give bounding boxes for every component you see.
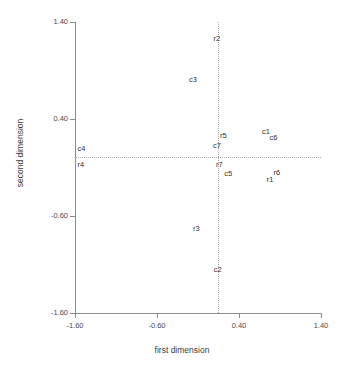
horizontal-reference-line: [75, 157, 321, 158]
x-axis-tick: [239, 313, 240, 318]
data-point-label: c4: [78, 145, 86, 153]
y-axis-tick-label: 1.40: [53, 18, 68, 26]
data-point-label: r2: [214, 35, 221, 43]
y-axis-tick: [70, 119, 75, 120]
x-axis-title: first dimension: [0, 345, 364, 355]
data-point-label: c3: [189, 76, 197, 84]
data-point-label: c6: [269, 134, 277, 142]
x-axis-line: [75, 313, 321, 314]
data-point-label: r5: [220, 132, 227, 140]
y-axis-tick-label: -1.60: [51, 309, 68, 317]
x-axis-tick: [321, 313, 322, 318]
data-point-label: r7: [216, 161, 223, 169]
y-axis-line: [75, 22, 76, 314]
y-axis-tick: [70, 22, 75, 23]
x-axis-tick-label: -0.60: [148, 322, 165, 330]
data-point-label: r4: [77, 161, 84, 169]
data-point-label: r3: [193, 225, 200, 233]
x-axis-tick: [157, 313, 158, 318]
y-axis-title: second dimension: [15, 78, 25, 228]
y-axis-tick: [70, 216, 75, 217]
x-axis-tick-label: -1.60: [66, 322, 83, 330]
x-axis-tick-label: 1.40: [314, 322, 329, 330]
data-point-label: c2: [214, 266, 222, 274]
y-axis-tick-label: 0.40: [53, 115, 68, 123]
data-point-label: c5: [224, 170, 232, 178]
x-axis-tick-label: 0.40: [232, 322, 247, 330]
x-axis-tick: [75, 313, 76, 318]
data-point-label: r6: [273, 169, 280, 177]
data-point-label: r1: [267, 176, 274, 184]
y-axis-tick-label: -0.60: [51, 212, 68, 220]
data-point-label: c7: [213, 142, 221, 150]
scatter-plot: 1.400.40-0.60-1.60-1.60-0.600.401.40 r2c…: [0, 0, 364, 371]
